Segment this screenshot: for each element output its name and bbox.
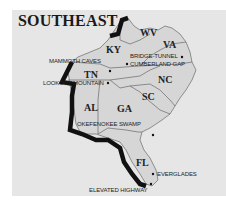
- state-label-ga: GA: [117, 103, 132, 114]
- state-label-wv: WV: [140, 27, 157, 38]
- state-label-sc: SC: [142, 91, 155, 102]
- bridge-tunnel-marker: [181, 56, 183, 58]
- place-label-elevated-highway: ELEVATED HIGHWAY: [89, 187, 148, 193]
- everglades-marker: [152, 173, 154, 175]
- okefenokee-swamp-marker: [152, 134, 154, 136]
- place-label-mammoth-caves: MAMMOTH CAVES: [49, 58, 101, 64]
- state-label-al: AL: [84, 102, 98, 113]
- southeast-map: [0, 0, 226, 211]
- state-label-ky: KY: [106, 44, 121, 55]
- state-label-nc: NC: [158, 74, 172, 85]
- place-label-okefenokee-swamp: OKEFENOKEE SWAMP: [77, 121, 141, 127]
- state-label-fl: FL: [136, 157, 149, 168]
- mammoth-caves-marker: [109, 70, 111, 72]
- map-title: SOUTHEAST: [18, 12, 118, 30]
- place-label-lookout-mountain: LOOKOUT MOUNTAIN: [43, 80, 104, 86]
- state-label-tn: TN: [84, 69, 98, 80]
- lookout-mountain-marker: [107, 82, 109, 84]
- place-label-everglades: EVERGLADES: [157, 171, 197, 177]
- place-label-cumberland-gap: CUMBERLAND GAP: [130, 61, 185, 67]
- elevated-highway-marker: [150, 183, 152, 185]
- state-label-va: VA: [163, 39, 176, 50]
- place-label-bridge-tunnel: BRIDGE-TUNNEL: [130, 53, 178, 59]
- cumberland-gap-marker: [126, 63, 128, 65]
